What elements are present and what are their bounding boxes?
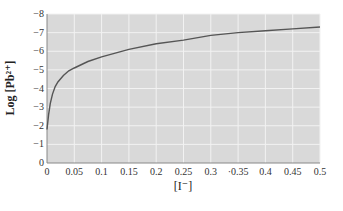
x-tick-label: 0.45 (284, 166, 302, 177)
y-tick-label: −2 (33, 120, 44, 131)
y-tick-label: −5 (33, 64, 44, 75)
x-tick-label: 0 (45, 166, 50, 177)
x-tick-label: ·0.35 (228, 166, 249, 177)
y-tick-label: −7 (33, 27, 44, 38)
y-tick-label: −8 (33, 8, 44, 19)
y-tick-label: −1 (33, 138, 44, 149)
x-tick-label: 0.05 (66, 166, 84, 177)
y-tick-label: −6 (33, 45, 44, 56)
x-tick-label: 0.2 (150, 166, 163, 177)
x-tick-label: 0.25 (175, 166, 193, 177)
x-axis-ticks: 00.050.10.150.20.250.3·0.350.40.450.5 (45, 166, 327, 177)
x-tick-label: 0.1 (95, 166, 108, 177)
y-tick-label: 0 (39, 157, 44, 168)
y-tick-label: −3 (33, 101, 44, 112)
y-axis-label: Log [Pb²⁺] (3, 61, 17, 116)
x-tick-label: 0.3 (205, 166, 218, 177)
x-tick-label: 0.15 (120, 166, 138, 177)
y-axis-ticks: 0−1−2−3−4−5−6−7−8 (33, 8, 44, 168)
x-axis-label: [I⁻] (174, 179, 192, 193)
y-tick-label: −4 (33, 83, 44, 94)
chart: 0−1−2−3−4−5−6−7−8 00.050.10.150.20.250.3… (0, 0, 343, 211)
x-tick-label: 0.5 (314, 166, 327, 177)
x-tick-label: 0.4 (259, 166, 272, 177)
